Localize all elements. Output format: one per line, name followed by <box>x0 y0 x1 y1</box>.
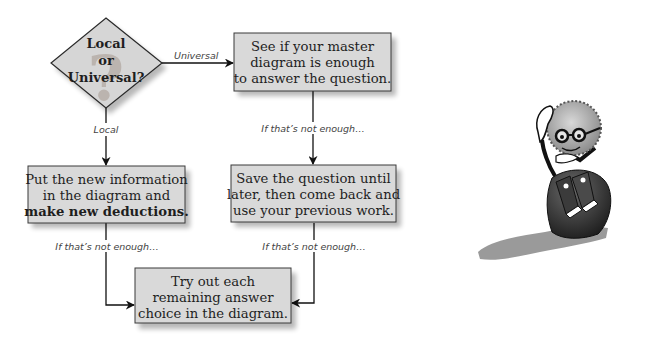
box-save-line-1: Save the question until <box>236 171 391 186</box>
box-newinfo-line-2: in the diagram and <box>43 188 171 203</box>
decision-line-1: Local <box>86 36 125 51</box>
character-head <box>547 101 601 155</box>
box-try-choices: Try out each remaining answer choice in … <box>135 268 296 329</box>
decision-diamond: ? Local or Universal? <box>51 18 167 115</box>
decision-line-2: or <box>98 53 114 68</box>
flowchart: Universal Local If that’s not enough… If… <box>0 0 648 345</box>
box-try-line-1: Try out each <box>171 274 256 289</box>
box-save-line-3: use your previous work. <box>233 203 394 218</box>
decision-line-3: Universal? <box>68 70 145 85</box>
edge-label-local: Local <box>94 124 119 135</box>
edge-label-not-enough-right-bottom: If that’s not enough… <box>262 241 365 252</box>
edge-label-not-enough-left: If that’s not enough… <box>55 241 158 252</box>
box-master-line-1: See if your master <box>251 39 375 54</box>
edge-newinfo-to-try <box>106 223 134 305</box>
box-save-question: Save the question until later, then come… <box>227 165 401 227</box>
box-master-line-3: to answer the question. <box>234 71 392 86</box>
edge-label-not-enough-right-top: If that’s not enough… <box>261 123 364 134</box>
box-master-line-2: diagram is enough <box>250 55 375 70</box>
box-save-line-2: later, then come back and <box>227 187 401 202</box>
box-master-diagram: See if your master diagram is enough to … <box>234 33 396 96</box>
box-try-line-2: remaining answer <box>152 290 274 305</box>
edge-label-universal: Universal <box>174 50 219 61</box>
box-newinfo-line-1: Put the new information <box>25 172 188 187</box>
thinking-character-illustration <box>478 101 611 260</box>
chin-hand <box>556 154 578 163</box>
box-new-information: Put the new information in the diagram a… <box>24 166 190 228</box>
box-newinfo-line-3: make new deductions. <box>24 204 189 219</box>
box-try-line-3: choice in the diagram. <box>138 306 288 321</box>
